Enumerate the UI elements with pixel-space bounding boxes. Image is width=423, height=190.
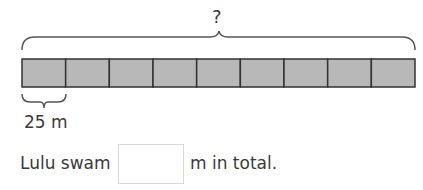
bar-segment bbox=[240, 59, 284, 87]
bar-segment bbox=[284, 59, 328, 87]
bar-segment bbox=[371, 59, 415, 87]
bar-segment bbox=[153, 59, 197, 87]
answer-input-box[interactable] bbox=[118, 144, 184, 184]
sentence-suffix: m in total. bbox=[190, 153, 277, 173]
bar-segment bbox=[197, 59, 241, 87]
bar-segment bbox=[109, 59, 153, 87]
segment-brace bbox=[22, 94, 66, 108]
total-brace bbox=[22, 31, 415, 50]
total-unknown-label: ? bbox=[212, 6, 222, 27]
bar-segment bbox=[66, 59, 110, 87]
bar-segment bbox=[328, 59, 372, 87]
bar-segment bbox=[22, 59, 66, 87]
sentence-prefix: Lulu swam bbox=[20, 153, 111, 173]
segment-length-label: 25 m bbox=[24, 112, 68, 132]
bar-segments bbox=[22, 59, 415, 87]
